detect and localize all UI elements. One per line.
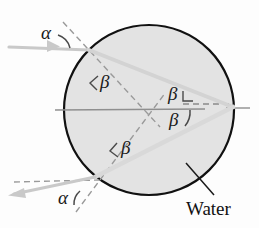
exit-ray	[14, 177, 95, 194]
alpha-bottom-angle-arc	[74, 191, 80, 205]
horizontal-axis-line	[55, 109, 205, 110]
figure-canvas: α β β β β α Water	[0, 0, 259, 228]
water-label: Water	[186, 198, 231, 220]
beta-lower-left-label: β	[121, 138, 130, 157]
exit-ray-arrowhead	[8, 188, 26, 198]
beta-right-lower-label: β	[169, 110, 178, 129]
ray-diagram-svg	[0, 0, 259, 228]
alpha-top-label: α	[41, 23, 51, 42]
beta-upper-left-label: β	[100, 72, 109, 91]
beta-right-upper-label: β	[168, 84, 177, 103]
alpha-top-angle-arc	[58, 35, 70, 48]
alpha-bottom-label: α	[58, 188, 68, 207]
